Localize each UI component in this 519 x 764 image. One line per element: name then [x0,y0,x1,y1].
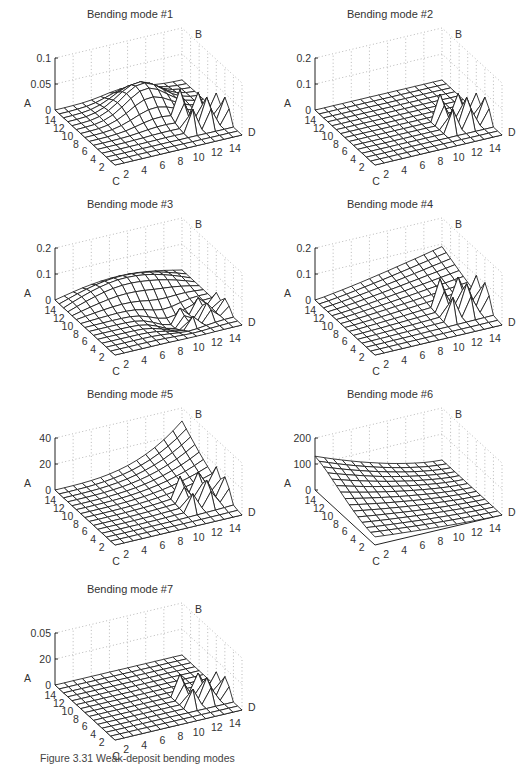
svg-text:40: 40 [39,432,51,444]
svg-text:6: 6 [82,525,88,537]
svg-text:B: B [195,218,202,230]
surface-plot-1: Bending mode #10.10.05014121086422468101… [0,0,260,190]
svg-text:0.1: 0.1 [36,52,51,64]
svg-text:0.1: 0.1 [296,78,311,90]
svg-text:8: 8 [178,535,184,547]
svg-text:D: D [248,506,256,518]
surface-plot-3: Bending mode #30.20.10141210864224681012… [0,190,260,380]
svg-text:8: 8 [178,345,184,357]
svg-text:4: 4 [141,164,147,176]
svg-text:0.05: 0.05 [31,627,52,639]
svg-text:6: 6 [159,734,165,746]
svg-text:4: 4 [90,728,96,740]
svg-text:14: 14 [229,142,241,154]
svg-text:12: 12 [471,526,483,538]
svg-text:D: D [248,701,256,713]
svg-text:0.1: 0.1 [296,268,311,280]
svg-text:C: C [112,365,120,377]
svg-text:20: 20 [39,653,51,665]
svg-text:4: 4 [90,153,96,165]
svg-text:4: 4 [90,533,96,545]
svg-text:4: 4 [401,164,407,176]
surface-canvas: 200100014121086422468101214ABCD [260,380,519,570]
svg-text:C: C [112,555,120,567]
svg-text:C: C [112,175,120,187]
svg-text:A: A [284,97,291,109]
svg-text:4: 4 [350,343,356,355]
svg-text:0.2: 0.2 [296,52,311,64]
surface-plot-6: Bending mode #62001000141210864224681012… [260,380,519,570]
svg-text:8: 8 [178,730,184,742]
svg-text:C: C [372,365,380,377]
svg-text:12: 12 [211,526,223,538]
svg-text:D: D [508,316,516,328]
svg-text:6: 6 [342,335,348,347]
svg-text:D: D [508,126,516,138]
svg-text:D: D [248,316,256,328]
svg-text:8: 8 [73,713,79,725]
svg-text:14: 14 [489,142,501,154]
surface-plot-5: Bending mode #54020014121086422468101214… [0,380,260,570]
svg-text:2: 2 [99,161,105,173]
svg-text:6: 6 [419,159,425,171]
svg-text:A: A [24,477,31,489]
svg-text:8: 8 [333,518,339,530]
svg-text:0.05: 0.05 [31,78,52,90]
svg-text:B: B [195,28,202,40]
svg-text:2: 2 [383,358,389,370]
svg-text:4: 4 [401,354,407,366]
svg-text:10: 10 [453,341,465,353]
svg-text:12: 12 [471,146,483,158]
svg-text:6: 6 [82,145,88,157]
svg-text:10: 10 [453,531,465,543]
svg-text:D: D [248,126,256,138]
svg-text:12: 12 [211,336,223,348]
svg-text:2: 2 [359,541,365,553]
svg-text:10: 10 [193,341,205,353]
figure-caption: Figure 3.31 Weak-deposit bending modes [40,752,235,764]
svg-text:4: 4 [90,343,96,355]
svg-text:C: C [372,175,380,187]
svg-text:2: 2 [99,541,105,553]
svg-text:D: D [508,506,516,518]
svg-text:8: 8 [438,155,444,167]
svg-text:8: 8 [333,328,339,340]
svg-text:10: 10 [453,151,465,163]
svg-text:2: 2 [359,161,365,173]
surface-plot-4: Bending mode #40.20.10141210864224681012… [260,190,519,380]
svg-text:2: 2 [123,358,129,370]
svg-text:100: 100 [293,458,311,470]
svg-text:6: 6 [419,349,425,361]
svg-text:A: A [24,672,31,684]
svg-text:4: 4 [350,153,356,165]
svg-text:200: 200 [293,432,311,444]
svg-text:10: 10 [62,705,74,717]
svg-text:4: 4 [141,544,147,556]
svg-text:14: 14 [489,332,501,344]
svg-text:10: 10 [193,151,205,163]
svg-text:14: 14 [489,522,501,534]
svg-text:6: 6 [419,539,425,551]
svg-text:12: 12 [211,721,223,733]
svg-text:4: 4 [141,354,147,366]
svg-text:10: 10 [322,320,334,332]
surface-canvas: 0.10.05014121086422468101214ABCD [0,0,260,190]
surface-canvas: 0.20.1014121086422468101214ABCD [260,0,519,190]
svg-text:8: 8 [178,155,184,167]
svg-text:6: 6 [342,525,348,537]
svg-text:0.2: 0.2 [36,242,51,254]
svg-text:2: 2 [123,548,129,560]
svg-text:4: 4 [401,544,407,556]
svg-text:8: 8 [333,138,339,150]
svg-text:10: 10 [193,531,205,543]
svg-text:8: 8 [73,138,79,150]
svg-text:2: 2 [383,168,389,180]
svg-text:6: 6 [159,539,165,551]
svg-text:8: 8 [73,328,79,340]
svg-text:10: 10 [62,320,74,332]
svg-text:14: 14 [229,717,241,729]
svg-text:0.1: 0.1 [36,268,51,280]
svg-text:2: 2 [123,168,129,180]
svg-text:B: B [455,28,462,40]
svg-text:4: 4 [350,533,356,545]
